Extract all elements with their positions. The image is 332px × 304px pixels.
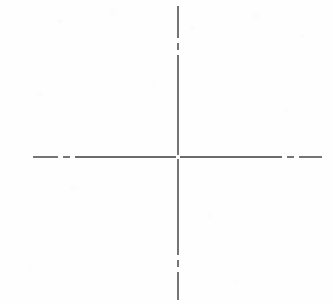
drawing-canvas — [0, 0, 332, 304]
centerline-crosshair — [0, 0, 332, 304]
